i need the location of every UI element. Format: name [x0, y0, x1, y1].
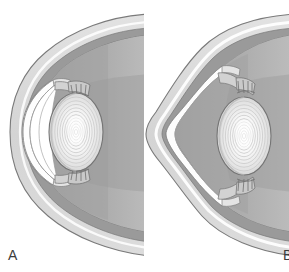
lens-nucleus-highlight: [67, 116, 85, 144]
normal-eye-cross-section-drawing: [0, 0, 144, 272]
keratoconus-eye-cross-section-drawing: [144, 0, 289, 272]
panel-b-label: B: [283, 248, 289, 262]
lens-nucleus-highlight: [235, 120, 253, 148]
panel-a-normal-eye: A: [0, 0, 144, 272]
panel-b-keratoconus-eye: B: [144, 0, 289, 272]
panel-a-label: A: [8, 248, 18, 262]
eye-comparison-figure: A: [0, 0, 289, 272]
